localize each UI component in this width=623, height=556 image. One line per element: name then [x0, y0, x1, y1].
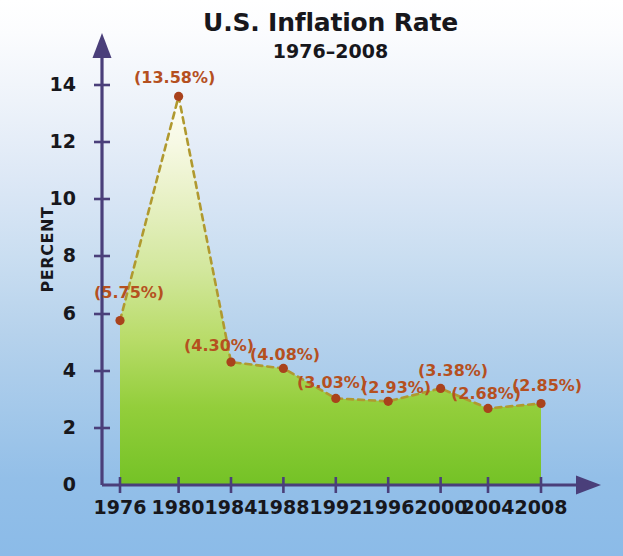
data-point-1988	[279, 364, 288, 373]
data-label-2004: (2.68%)	[451, 384, 521, 403]
y-axis-tick-label-6: 6	[36, 302, 76, 324]
y-axis-tick-label-10: 10	[36, 187, 76, 209]
data-point-1996	[384, 397, 393, 406]
data-label-1984: (4.30%)	[184, 336, 254, 355]
y-axis	[93, 33, 112, 485]
data-label-1980: (13.58%)	[134, 68, 215, 87]
x-axis-tick-label-1976: 1976	[87, 496, 153, 518]
data-label-1996: (2.93%)	[361, 378, 431, 397]
data-point-2008	[536, 399, 545, 408]
y-axis-tick-label-2: 2	[36, 416, 76, 438]
data-point-2000	[436, 384, 445, 393]
x-axis-arrow-icon	[576, 476, 601, 495]
inflation-rate-chart: U.S. Inflation Rate 1976–2008 PERCENT 14…	[0, 0, 623, 556]
area-fill	[120, 96, 541, 485]
y-axis-tick-label-0: 0	[36, 473, 76, 495]
y-axis-tick-label-12: 12	[36, 130, 76, 152]
data-point-1980	[174, 92, 183, 101]
y-axis-tick-label-14: 14	[36, 73, 76, 95]
data-point-1992	[331, 394, 340, 403]
data-point-1976	[115, 316, 124, 325]
data-point-1984	[226, 358, 235, 367]
y-axis-tick-label-8: 8	[36, 244, 76, 266]
chart-canvas	[0, 0, 623, 556]
data-label-2008: (2.85%)	[512, 376, 582, 395]
data-point-2004	[483, 404, 492, 413]
data-label-1988: (4.08%)	[250, 345, 320, 364]
x-axis-tick-label-2008: 2008	[508, 496, 574, 518]
y-axis-arrow-icon	[93, 33, 112, 58]
data-label-1976: (5.75%)	[94, 283, 164, 302]
y-axis-tick-label-4: 4	[36, 359, 76, 381]
data-label-2000: (3.38%)	[418, 361, 488, 380]
data-label-1992: (3.03%)	[297, 373, 367, 392]
